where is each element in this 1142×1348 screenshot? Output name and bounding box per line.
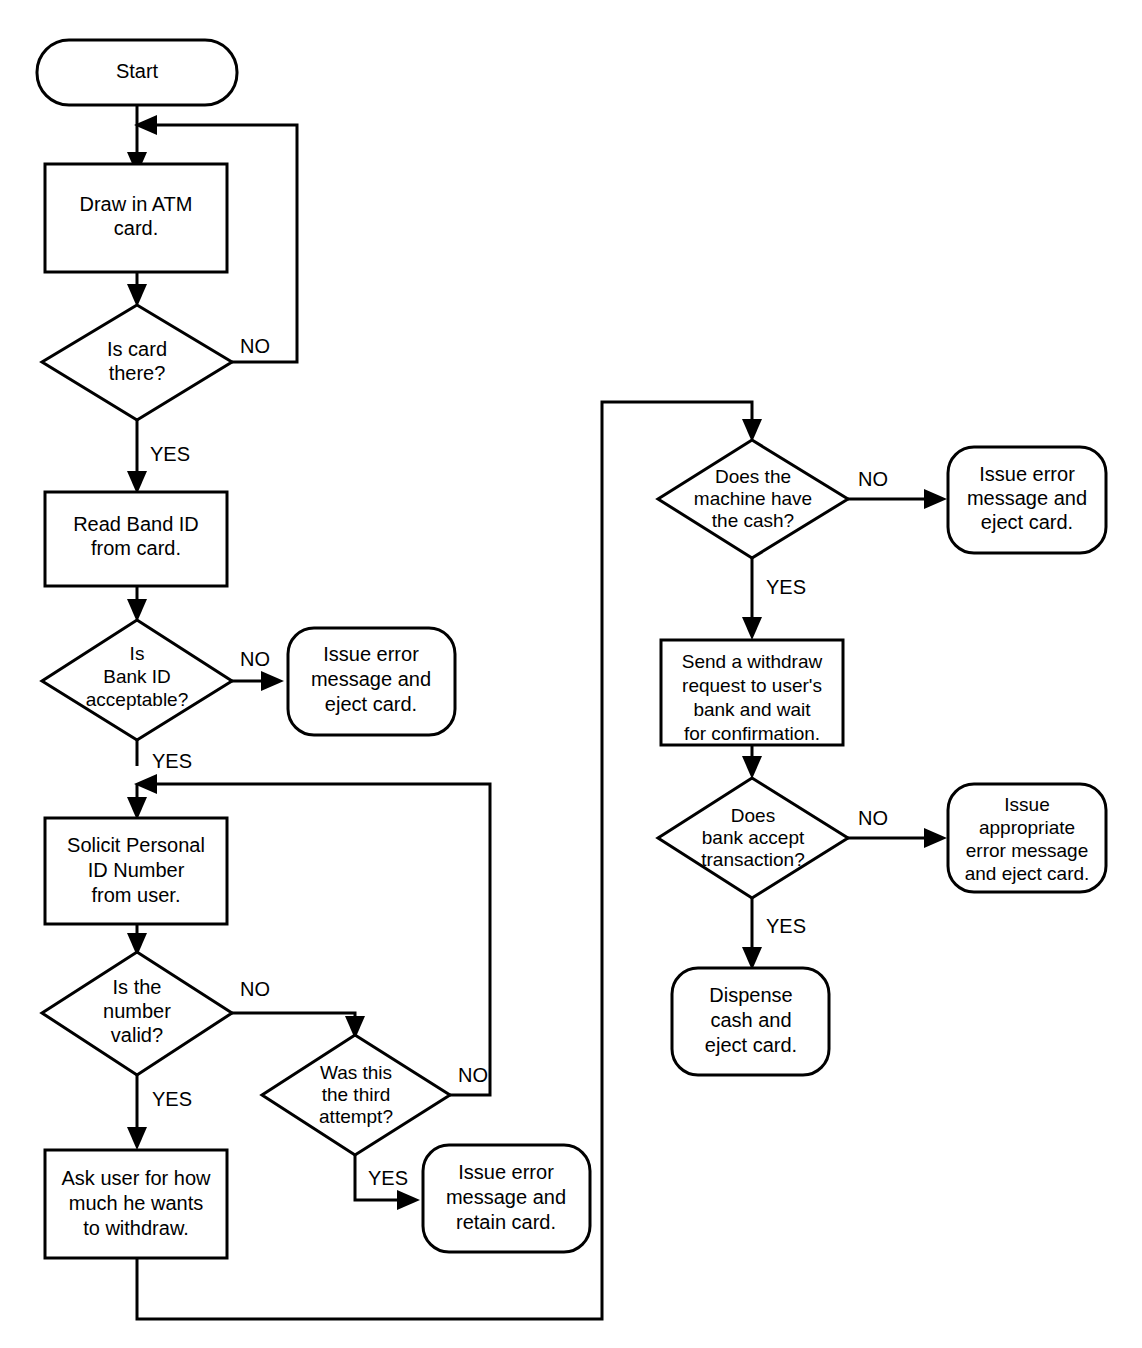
error-appropriate-line-2: appropriate — [979, 817, 1075, 838]
dispense-line-3: eject card. — [705, 1034, 797, 1056]
has-cash-line-1: Does the — [715, 466, 791, 487]
error-appropriate-line-4: and eject card. — [965, 863, 1090, 884]
read-bank-id-line-1: Read Band ID — [73, 513, 199, 535]
arrowhead-bankid-no — [261, 671, 284, 691]
bank-accepts-line-3: transaction? — [701, 849, 805, 870]
edge-valid-no — [232, 1013, 355, 1022]
error-eject-2-line-2: message and — [967, 487, 1087, 509]
node-has-cash[interactable]: Does the machine have the cash? — [658, 440, 848, 558]
arrowhead-accept-no — [924, 828, 947, 848]
node-is-card-there[interactable]: Is card there? — [42, 305, 232, 420]
is-card-there-line-2: there? — [109, 362, 166, 384]
error-appropriate-line-1: Issue — [1004, 794, 1049, 815]
is-bank-id-line-2: Bank ID — [103, 666, 171, 687]
ask-amount-line-1: Ask user for how — [62, 1167, 212, 1189]
error-eject-1-line-3: eject card. — [325, 693, 417, 715]
is-number-valid-line-1: Is the — [113, 976, 162, 998]
edge-label-number-no: NO — [240, 978, 270, 1000]
read-bank-id-line-2: from card. — [91, 537, 181, 559]
solicit-pin-line-1: Solicit Personal — [67, 834, 205, 856]
dispense-line-1: Dispense — [709, 984, 792, 1006]
is-card-there-line-1: Is card — [107, 338, 167, 360]
arrowhead-bankaccept — [742, 756, 762, 779]
flowchart-svg: Start Draw in ATM card. Is card there? N… — [0, 0, 1142, 1348]
node-error-appropriate[interactable]: Issue appropriate error message and ejec… — [948, 784, 1106, 892]
third-attempt-line-2: the third — [322, 1084, 391, 1105]
node-solicit-pin[interactable]: Solicit Personal ID Number from user. — [45, 818, 227, 924]
edge-label-accept-yes: YES — [766, 915, 806, 937]
bank-accepts-line-2: bank accept — [702, 827, 805, 848]
error-eject-1-line-2: message and — [311, 668, 431, 690]
edge-label-card-no: NO — [240, 335, 270, 357]
is-bank-id-line-3: acceptable? — [86, 689, 188, 710]
has-cash-line-3: the cash? — [712, 510, 794, 531]
error-eject-1-line-1: Issue error — [323, 643, 419, 665]
edge-label-number-yes: YES — [152, 1088, 192, 1110]
send-withdraw-line-2: request to user's — [682, 675, 822, 696]
error-eject-2-line-3: eject card. — [981, 511, 1073, 533]
flowchart-canvas: Start Draw in ATM card. Is card there? N… — [0, 0, 1142, 1348]
is-number-valid-line-2: number — [103, 1000, 171, 1022]
has-cash-line-2: machine have — [694, 488, 812, 509]
error-appropriate-line-3: error message — [966, 840, 1089, 861]
node-is-bank-id-acceptable[interactable]: Is Bank ID acceptable? — [42, 620, 232, 740]
edge-label-cash-yes: YES — [766, 576, 806, 598]
arrowhead-sendwithdraw — [742, 617, 762, 640]
third-attempt-line-1: Was this — [320, 1062, 392, 1083]
error-retain-line-3: retain card. — [456, 1211, 556, 1233]
start-label: Start — [116, 60, 159, 82]
node-send-withdraw[interactable]: Send a withdraw request to user's bank a… — [661, 640, 843, 745]
node-draw-card[interactable]: Draw in ATM card. — [45, 164, 227, 272]
error-retain-line-1: Issue error — [458, 1161, 554, 1183]
draw-card-line-1: Draw in ATM — [80, 193, 193, 215]
node-bank-accepts[interactable]: Does bank accept transaction? — [658, 778, 848, 898]
solicit-pin-line-3: from user. — [92, 884, 181, 906]
node-is-number-valid[interactable]: Is the number valid? — [42, 952, 232, 1075]
ask-amount-line-2: much he wants — [69, 1192, 204, 1214]
edge-label-bankid-no: NO — [240, 648, 270, 670]
dispense-line-2: cash and — [710, 1009, 791, 1031]
ask-amount-line-3: to withdraw. — [83, 1217, 189, 1239]
node-error-eject-2[interactable]: Issue error message and eject card. — [948, 447, 1106, 553]
bank-accepts-line-1: Does — [731, 805, 775, 826]
error-eject-2-line-1: Issue error — [979, 463, 1075, 485]
node-read-bank-id[interactable]: Read Band ID from card. — [45, 492, 227, 586]
node-dispense[interactable]: Dispense cash and eject card. — [672, 968, 829, 1075]
node-third-attempt[interactable]: Was this the third attempt? — [262, 1035, 450, 1155]
edge-label-card-yes: YES — [150, 443, 190, 465]
is-number-valid-line-3: valid? — [111, 1024, 163, 1046]
edge-label-bankid-yes: YES — [152, 750, 192, 772]
solicit-pin-line-2: ID Number — [88, 859, 185, 881]
send-withdraw-line-4: for confirmation. — [684, 723, 820, 744]
node-error-eject-1[interactable]: Issue error message and eject card. — [288, 628, 455, 735]
send-withdraw-line-3: bank and wait — [693, 699, 811, 720]
draw-card-line-2: card. — [114, 217, 158, 239]
node-error-retain[interactable]: Issue error message and retain card. — [423, 1145, 590, 1252]
edge-label-third-no: NO — [458, 1064, 488, 1086]
edge-label-third-yes: YES — [368, 1167, 408, 1189]
arrowhead-cash-no — [924, 489, 947, 509]
send-withdraw-line-1: Send a withdraw — [682, 651, 823, 672]
third-attempt-line-3: attempt? — [319, 1106, 393, 1127]
node-ask-amount[interactable]: Ask user for how much he wants to withdr… — [45, 1150, 227, 1258]
is-bank-id-line-1: Is — [130, 643, 145, 664]
arrowhead-ask-amount — [127, 1127, 147, 1150]
arrowhead-retain — [397, 1190, 420, 1210]
edge-label-cash-no: NO — [858, 468, 888, 490]
node-start[interactable]: Start — [37, 40, 237, 105]
edge-label-accept-no: NO — [858, 807, 888, 829]
error-retain-line-2: message and — [446, 1186, 566, 1208]
